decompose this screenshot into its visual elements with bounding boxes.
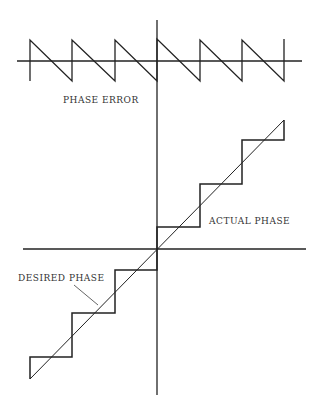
actual-phase-label: ACTUAL PHASE [209, 216, 290, 226]
phase-diagram [0, 0, 319, 415]
phase-error-label: PHASE ERROR [63, 95, 139, 105]
desired-phase-label: DESIRED PHASE [18, 273, 105, 283]
desired-phase-leader [74, 285, 98, 305]
phase-error-sawtooth [30, 39, 284, 81]
